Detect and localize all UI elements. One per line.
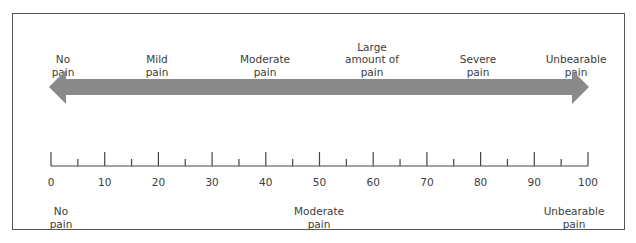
tick-label: 20 [152, 176, 165, 188]
tick-label: 100 [578, 176, 598, 188]
tick-label: 10 [98, 176, 111, 188]
tick-label: 70 [420, 176, 433, 188]
tick-label: 30 [205, 176, 218, 188]
bottom-label-moderate-pain: Moderate pain [294, 205, 344, 230]
tick-label: 80 [474, 176, 487, 188]
tick-label: 40 [259, 176, 272, 188]
tick-label: 50 [313, 176, 326, 188]
bottom-label-no-pain: No pain [50, 205, 73, 230]
bottom-label-unbearable-pain: Unbearable pain [544, 205, 605, 230]
tick-label: 0 [48, 176, 55, 188]
tick-label: 90 [528, 176, 541, 188]
tick-label: 60 [367, 176, 380, 188]
